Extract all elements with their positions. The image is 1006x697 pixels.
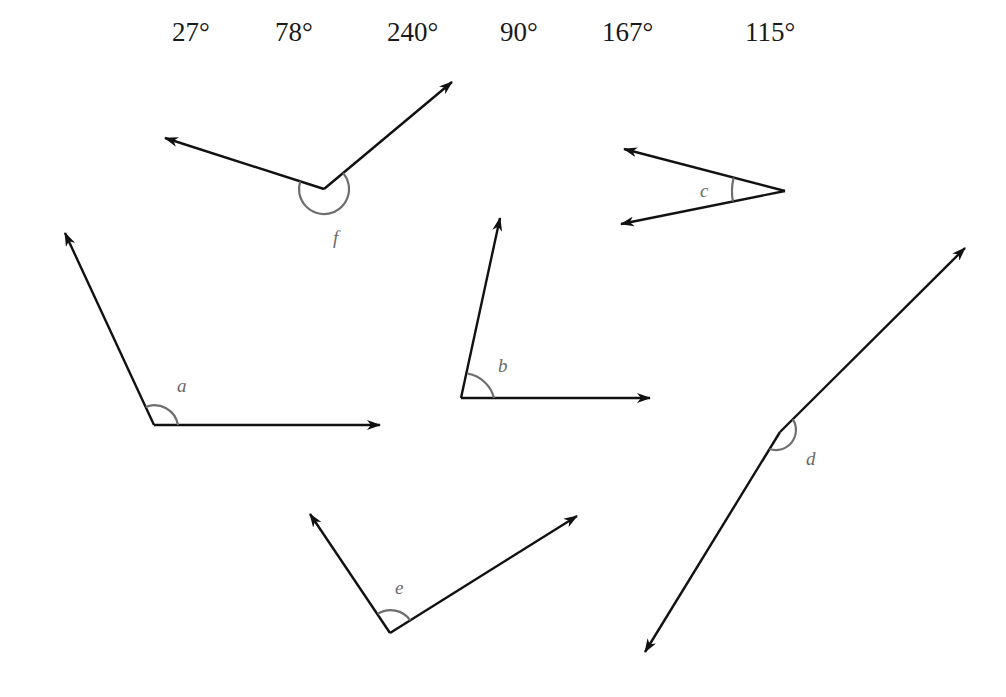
ray-icon xyxy=(310,514,390,633)
angles-canvas: f c a b d xyxy=(0,0,1006,697)
angle-arc-icon xyxy=(378,610,411,620)
angle-label-c: c xyxy=(700,180,709,201)
angle-arc-icon xyxy=(770,419,796,450)
angle-e: e xyxy=(310,514,577,633)
angle-label-f: f xyxy=(333,227,341,248)
ray-icon xyxy=(390,516,577,633)
angle-label-e: e xyxy=(395,577,403,598)
ray-icon xyxy=(324,82,452,189)
angle-arc-icon xyxy=(468,374,494,398)
angle-arc-icon xyxy=(299,173,349,214)
angle-a: a xyxy=(65,233,380,425)
angle-label-a: a xyxy=(177,375,187,396)
ray-icon xyxy=(780,248,965,432)
angle-f: f xyxy=(165,82,452,248)
ray-icon xyxy=(165,138,324,189)
angle-matching-diagram: 27° 78° 240° 90° 167° 115° f c xyxy=(0,0,1006,697)
ray-icon xyxy=(461,218,500,398)
angle-arc-icon xyxy=(732,178,734,202)
angle-label-b: b xyxy=(498,355,508,376)
ray-icon xyxy=(645,432,780,652)
angle-label-d: d xyxy=(806,448,816,469)
angle-b: b xyxy=(461,218,650,398)
ray-icon xyxy=(65,233,154,425)
angle-c: c xyxy=(621,149,785,224)
angle-d: d xyxy=(645,248,965,652)
